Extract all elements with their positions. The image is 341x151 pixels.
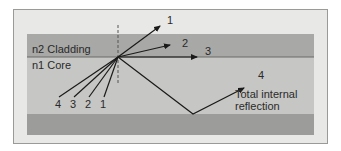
annotation-line1: Total internal bbox=[235, 89, 297, 100]
cladding-label: n2 Cladding bbox=[32, 44, 91, 55]
incident-label-2: 2 bbox=[85, 99, 91, 110]
core-label: n1 Core bbox=[32, 60, 71, 71]
incident-label-4: 4 bbox=[55, 99, 61, 110]
ray-label-4: 4 bbox=[258, 70, 264, 81]
ray-label-1: 1 bbox=[167, 15, 173, 26]
ray-label-3: 3 bbox=[205, 46, 211, 57]
ray-label-2: 2 bbox=[182, 38, 188, 49]
lower-cladding bbox=[27, 114, 314, 135]
incident-label-3: 3 bbox=[70, 99, 76, 110]
annotation-line2: reflection bbox=[235, 101, 280, 112]
incident-label-1: 1 bbox=[100, 99, 106, 110]
